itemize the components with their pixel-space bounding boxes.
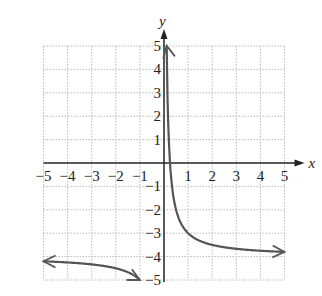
- curve-right-branch: [167, 46, 285, 252]
- x-tick-label: 1: [184, 168, 192, 184]
- x-tick-label: −3: [84, 168, 100, 184]
- arrowhead-top-icon: [163, 46, 175, 59]
- y-tick-label: 1: [154, 132, 162, 148]
- y-tick-label: −4: [145, 249, 161, 265]
- y-axis-arrow-icon: [161, 29, 168, 39]
- x-axis-arrow-icon: [295, 160, 305, 167]
- y-tick-label: 4: [154, 61, 162, 77]
- y-tick-label: 2: [154, 108, 162, 124]
- x-tick-label: 4: [257, 168, 265, 184]
- y-tick-label: −3: [145, 225, 161, 241]
- x-tick-label: 5: [281, 168, 289, 184]
- x-tick-label: 2: [208, 168, 216, 184]
- y-tick-label: −2: [145, 202, 161, 218]
- x-tick-label: 3: [233, 168, 241, 184]
- y-axis-label: y: [157, 13, 166, 29]
- y-tick-label: −1: [145, 178, 161, 194]
- x-tick-label: −4: [60, 168, 76, 184]
- y-tick-label: −5: [145, 272, 161, 288]
- x-tick-label: −5: [36, 168, 52, 184]
- x-axis-label: x: [308, 155, 316, 171]
- x-tick-label: −2: [108, 168, 124, 184]
- y-tick-label: 3: [154, 85, 162, 101]
- rational-function-graph: xy−5−4−3−2−11234554321−1−2−3−4−5: [0, 0, 322, 296]
- y-tick-label: 5: [154, 38, 162, 54]
